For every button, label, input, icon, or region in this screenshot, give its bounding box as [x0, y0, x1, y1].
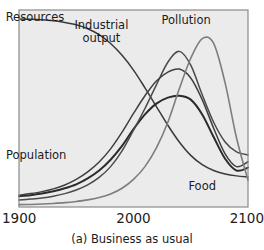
figure-business-as-usual: ResourcesPopulationIndustrialoutputFoodP…	[0, 0, 264, 250]
x-axis-tick-2000: 2000	[116, 210, 150, 226]
x-axis-tick-2100: 2100	[230, 210, 264, 226]
world3-limits-to-growth-chart: ResourcesPopulationIndustrialoutputFoodP…	[0, 0, 264, 250]
plot-background	[19, 10, 248, 207]
x-axis-tick-1900: 1900	[2, 210, 36, 226]
figure-caption: (a) Business as usual	[71, 232, 193, 246]
series-label-industrial-output: Industrialoutput	[74, 18, 128, 45]
series-label-resources: Resources	[6, 10, 65, 24]
plot-area	[19, 10, 248, 207]
series-label-pollution: Pollution	[162, 13, 211, 27]
series-label-population: Population	[6, 148, 66, 162]
series-label-food: Food	[188, 179, 216, 193]
x-axis-tick-group: 190020002100	[2, 210, 264, 226]
